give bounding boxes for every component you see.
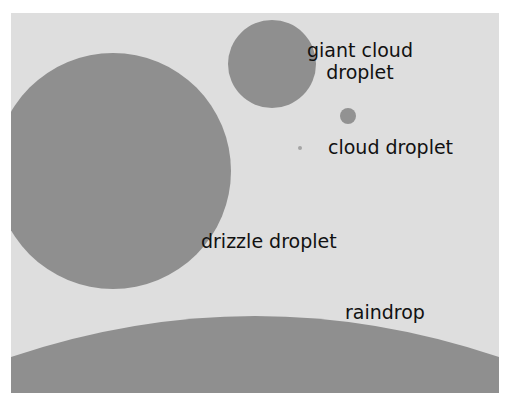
diagram-panel: giant cloud droplet cloud droplet drizzl… xyxy=(11,13,499,393)
giant-cloud-droplet-label: giant cloud droplet xyxy=(307,39,413,83)
condensation-nucleus-dot xyxy=(298,146,302,150)
giant-cloud-droplet-circle xyxy=(228,20,316,108)
giant-cloud-droplet-label-line2: droplet xyxy=(307,61,413,83)
raindrop-arc xyxy=(11,316,499,393)
drizzle-droplet-circle xyxy=(11,53,231,289)
cloud-droplet-label: cloud droplet xyxy=(328,136,453,158)
giant-cloud-droplet-label-line1: giant cloud xyxy=(307,39,413,61)
droplet-shapes xyxy=(11,13,499,393)
cloud-droplet-circle xyxy=(340,108,356,124)
drizzle-droplet-label: drizzle droplet xyxy=(201,230,337,252)
raindrop-label: raindrop xyxy=(345,301,425,323)
